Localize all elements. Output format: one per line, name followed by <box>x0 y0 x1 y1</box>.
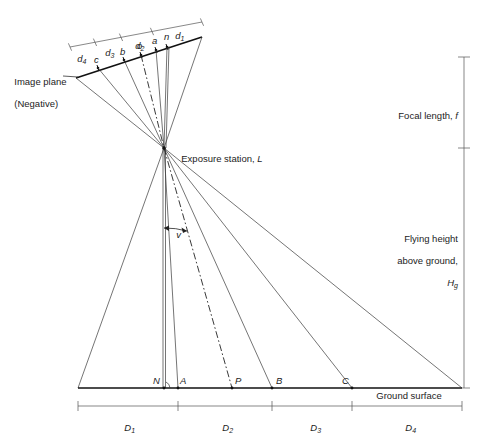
ground-point-label-N: N <box>153 375 160 386</box>
dimension-label-d3: d3 <box>100 36 114 61</box>
image-point-label-n: n <box>164 31 169 42</box>
dimension-label-d4: d4 <box>72 42 86 67</box>
angle-v-arrow-left <box>164 226 169 232</box>
exposure-station-label: Exposure station, L <box>176 142 263 164</box>
flying-height-line1: Flying height <box>404 233 458 244</box>
ground-dimension-label-D3: D3 <box>305 411 321 436</box>
figure-canvas: Image plane (Negative) d4 d3 d2 d1 c b o… <box>0 0 484 441</box>
image-point-label-c: c <box>94 54 99 65</box>
angle-v-arrow-right <box>182 228 188 234</box>
flying-height-line2: above ground, <box>397 255 458 266</box>
flying-height-label: Flying height above ground, Hg <box>378 222 458 291</box>
ground-dimension-bar <box>78 401 462 411</box>
ground-dimension-label-D4: D4 <box>400 411 416 436</box>
ground-point-label-C: C <box>342 375 349 386</box>
ground-point-label-B: B <box>276 375 282 386</box>
image-point-label-a: a <box>152 35 157 46</box>
nadir-vertical-line <box>163 148 166 388</box>
ground-dimension-label-D2: D2 <box>217 411 233 436</box>
image-plane-label-line1: Image plane <box>14 76 66 87</box>
image-point-label-b: b <box>120 46 125 57</box>
image-point-label-o: o <box>137 40 142 51</box>
dimension-label-d1: d1 <box>170 19 184 44</box>
exposure-station-node <box>162 146 166 150</box>
ground-point-label-P: P <box>235 375 241 386</box>
ground-angle-arc <box>166 382 170 388</box>
ground-surface-label: Ground surface <box>371 379 442 401</box>
image-plane-label: Image plane (Negative) <box>9 65 67 109</box>
right-vertical-dimension <box>458 57 470 388</box>
angle-v-label: v <box>171 218 181 240</box>
image-plane-label-line2: (Negative) <box>14 98 58 109</box>
focal-length-label: Focal length, f <box>390 99 458 121</box>
ground-point-label-A: A <box>180 375 186 386</box>
optical-axis-lower <box>164 148 232 388</box>
ground-dimension-label-D1: D1 <box>119 411 135 436</box>
